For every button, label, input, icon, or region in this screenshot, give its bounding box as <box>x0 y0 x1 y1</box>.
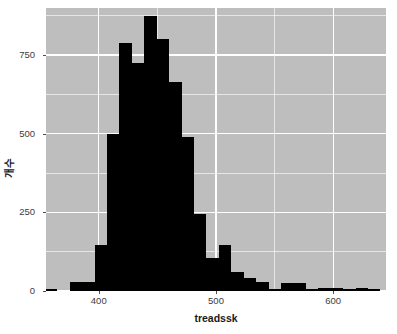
histogram-bar <box>82 282 94 291</box>
y-axis-tick-label: 250 <box>19 207 35 217</box>
plot-panel <box>46 8 386 291</box>
histogram-bar <box>206 258 218 291</box>
histogram-bar <box>256 282 268 291</box>
x-axis-tick-mark <box>216 291 217 294</box>
y-axis-tick-label: 0 <box>30 286 35 296</box>
histogram-bar <box>281 283 293 291</box>
histogram-bar <box>231 272 243 291</box>
x-axis-tick-label: 500 <box>208 296 224 306</box>
histogram-bar <box>318 288 330 291</box>
x-axis-tick-mark <box>99 291 100 294</box>
y-axis-tick-mark <box>43 55 46 56</box>
histogram-bar <box>182 137 194 291</box>
histogram-bar <box>144 16 156 291</box>
histogram-bar <box>368 289 380 292</box>
histogram-bar <box>219 245 231 291</box>
histogram-bar <box>306 289 318 291</box>
y-axis-tick-mark <box>43 291 46 292</box>
histogram-bars <box>46 8 386 291</box>
histogram-bar <box>107 134 119 291</box>
histogram-bar <box>46 289 57 291</box>
histogram-bar <box>343 289 355 291</box>
histogram-bar <box>70 282 82 291</box>
histogram-bar <box>169 82 181 291</box>
histogram-bar <box>157 39 169 291</box>
y-axis-tick-label: 750 <box>19 50 35 60</box>
x-axis-tick-mark <box>333 291 334 294</box>
y-axis-tick-label: 500 <box>19 129 35 139</box>
histogram-bar <box>119 43 131 291</box>
x-axis-tick-label: 600 <box>325 296 341 306</box>
histogram-bar <box>132 63 144 291</box>
y-axis-tick-mark <box>43 212 46 213</box>
histogram-bar <box>356 288 368 291</box>
histogram-bar <box>95 245 107 291</box>
histogram-bar <box>293 283 305 291</box>
y-axis-tick-mark <box>43 134 46 135</box>
y-axis-title-text: 개수 <box>1 157 16 177</box>
y-axis-title: 개수 <box>0 0 16 334</box>
x-axis-tick-label: 400 <box>91 296 107 306</box>
histogram-figure: 300400500600 0250500750 treadssk 개수 <box>0 0 397 334</box>
histogram-bar <box>244 278 256 291</box>
histogram-bar <box>194 214 206 291</box>
x-axis-title: treadssk <box>46 312 386 324</box>
histogram-bar <box>269 289 281 292</box>
